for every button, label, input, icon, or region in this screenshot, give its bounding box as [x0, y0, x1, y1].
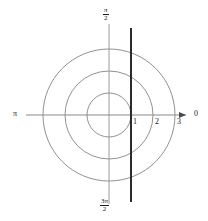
angle-label-zero: 0 — [194, 110, 198, 118]
fraction-3pi-over-2: 3π 2 — [100, 198, 109, 213]
radial-tick-label-3: 3 — [177, 118, 181, 126]
fraction-denominator: 2 — [103, 14, 109, 22]
fraction-numerator: π — [103, 7, 109, 14]
angle-label-three-pi-over-2: 3π 2 — [100, 196, 109, 213]
radial-tick-label-2: 2 — [155, 118, 159, 126]
horizontal-axis — [26, 112, 186, 118]
fraction-numerator: 3π — [100, 198, 109, 205]
polar-plot-figure: 1 2 3 0 π π 2 3π 2 — [0, 0, 208, 221]
angle-label-pi: π — [13, 110, 17, 118]
radial-tick-label-1: 1 — [133, 118, 137, 126]
fraction-denominator: 2 — [100, 205, 109, 213]
polar-plot-canvas — [0, 0, 208, 221]
angle-label-pi-over-2: π 2 — [103, 5, 109, 22]
fraction-pi-over-2: π 2 — [103, 7, 109, 22]
